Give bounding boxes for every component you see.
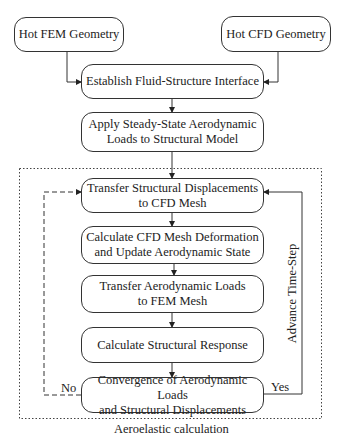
calculate-cfd-deformation-node: Calculate CFD Mesh Deformation and Updat… [81,226,264,264]
node-label-line2: to FEM Mesh [138,294,207,309]
convergence-node: Convergence of Aerodynamic Loads and Str… [81,377,264,413]
apply-loads-node: Apply Steady-State Aerodynamic Loads to … [81,112,264,152]
hot-fem-geometry-node: Hot FEM Geometry [14,17,124,52]
node-label-line1: Calculate CFD Mesh Deformation [86,230,259,245]
yes-label: Yes [271,380,289,395]
advance-time-step-label: Advance Time-Step [285,242,300,346]
node-label-line2: and Update Aerodynamic State [95,245,251,260]
node-label: Hot FEM Geometry [19,27,120,42]
node-label-line1: Transfer Structural Displacements [87,181,258,196]
hot-cfd-geometry-node: Hot CFD Geometry [221,16,331,52]
node-label: Establish Fluid-Structure Interface [86,74,259,89]
aeroelastic-calculation-label: Aeroelastic calculation [114,422,229,437]
node-label-line1: Apply Steady-State Aerodynamic [88,117,256,132]
transfer-loads-node: Transfer Aerodynamic Loads to FEM Mesh [81,275,264,313]
no-label: No [61,381,76,396]
node-label-line1: Transfer Aerodynamic Loads [99,279,245,294]
node-label-line1: Convergence of Aerodynamic Loads [82,373,263,403]
establish-interface-node: Establish Fluid-Structure Interface [81,64,264,99]
calculate-structural-response-node: Calculate Structural Response [81,327,264,363]
transfer-displacements-node: Transfer Structural Displacements to CFD… [81,178,264,213]
node-label: Hot CFD Geometry [226,27,325,42]
node-label: Calculate Structural Response [97,338,248,353]
node-label-line2: to CFD Mesh [138,196,206,211]
node-label-line2: Loads to Structural Model [107,132,239,147]
node-label-line2: and Structural Displacements [99,403,246,418]
